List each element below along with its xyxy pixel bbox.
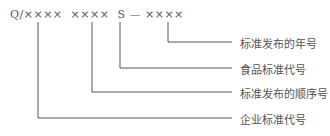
connector-enterprise xyxy=(38,22,232,118)
label-enterprise: 企业标准代号 xyxy=(240,111,306,127)
label-food-code: 食品标准代号 xyxy=(240,61,306,77)
connector-sequence xyxy=(92,22,232,92)
label-year: 标准发布的年号 xyxy=(240,35,317,51)
connector-year xyxy=(168,22,232,42)
label-sequence: 标准发布的顺序号 xyxy=(240,85,328,101)
connector-food-code xyxy=(120,22,232,68)
standard-code-diagram: Q/×××× ×××× S — ×××× 标准发布的年号 食品标准代号 标准发布… xyxy=(0,0,330,136)
